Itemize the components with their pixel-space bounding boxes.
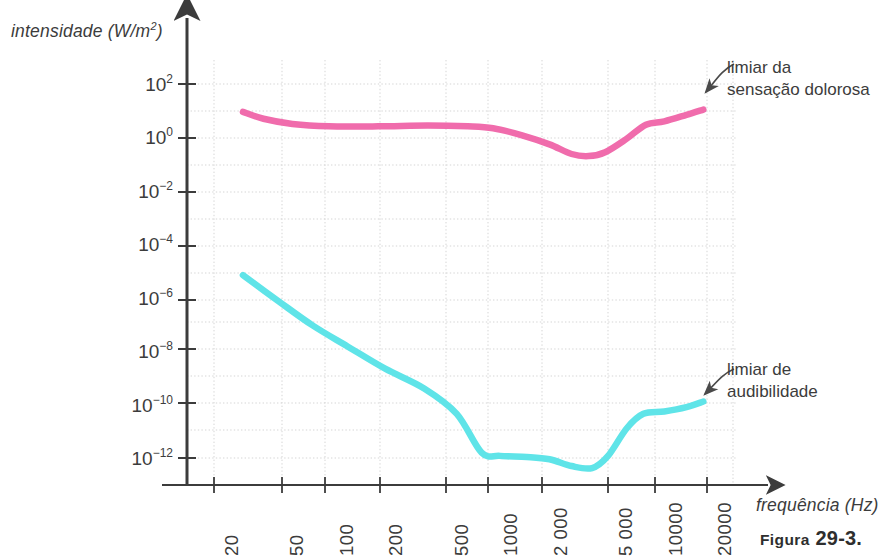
- y-tick-label-4: 10−6: [138, 286, 173, 309]
- annotation-hearing-line2: audibilidade: [727, 381, 818, 403]
- annotation-hearing-line1: limiar de: [727, 359, 818, 381]
- y-tick-label-1: 100: [145, 126, 173, 149]
- y-tick-exponent: −10: [153, 393, 173, 407]
- figure-caption: Figura 29-3.: [760, 527, 862, 550]
- y-tick-exponent: 2: [166, 72, 173, 86]
- x-tick-label-4: 500: [451, 524, 473, 556]
- curve-pain-threshold: [243, 110, 703, 157]
- y-axis-title-text: intensidade (W/m: [11, 21, 150, 41]
- y-tick-label-2: 10−2: [138, 179, 173, 202]
- y-tick-mantissa: 10: [145, 127, 166, 148]
- y-tick-mantissa: 10: [138, 181, 159, 202]
- annotation-pain-threshold: limiar da sensação dolorosa: [727, 57, 870, 101]
- x-tick-label-6: 2 000: [550, 507, 572, 556]
- y-axis-title: intensidade (W/m2): [11, 20, 163, 42]
- x-tick-label-9: 20000: [714, 502, 736, 556]
- x-tick-label-5: 1000: [500, 513, 522, 556]
- y-tick-mantissa: 10: [138, 341, 159, 362]
- x-tick-label-3: 200: [385, 524, 407, 556]
- y-tick-exponent: −6: [159, 286, 173, 300]
- y-tick-mantissa: 10: [138, 287, 159, 308]
- y-tick-exponent: −12: [153, 446, 173, 460]
- y-axis-title-suffix: ): [157, 21, 163, 41]
- annotation-pain-line2: sensação dolorosa: [727, 79, 870, 101]
- y-tick-exponent: −2: [159, 179, 173, 193]
- y-tick-label-3: 10−4: [138, 233, 173, 256]
- x-axis-title: frequência (Hz): [756, 495, 879, 516]
- x-tick-label-2: 100: [336, 524, 358, 556]
- figure-caption-prefix: Figura: [760, 531, 810, 548]
- x-tick-label-0: 20: [221, 534, 243, 556]
- annotation-pain-line1: limiar da: [727, 57, 870, 79]
- y-tick-label-0: 102: [145, 72, 173, 95]
- y-tick-label-5: 10−8: [138, 339, 173, 362]
- figure-caption-number: 29-3.: [816, 527, 863, 549]
- annotation-hearing-threshold: limiar de audibilidade: [727, 359, 818, 403]
- y-tick-exponent: 0: [166, 126, 173, 140]
- curve-hearing-threshold: [243, 275, 703, 469]
- y-tick-label-6: 10−10: [132, 393, 174, 416]
- x-tick-label-7: 5 000: [615, 507, 637, 556]
- figure-29-3: intensidade (W/m2) frequência (Hz) 10210…: [0, 0, 896, 559]
- x-tick-label-8: 10000: [665, 502, 687, 556]
- y-tick-mantissa: 10: [132, 448, 153, 469]
- y-tick-exponent: −4: [159, 233, 173, 247]
- y-tick-mantissa: 10: [132, 394, 153, 415]
- y-tick-mantissa: 10: [145, 74, 166, 95]
- y-tick-exponent: −8: [159, 339, 173, 353]
- x-tick-label-1: 50: [286, 534, 308, 556]
- y-tick-mantissa: 10: [138, 234, 159, 255]
- y-tick-label-7: 10−12: [132, 446, 174, 469]
